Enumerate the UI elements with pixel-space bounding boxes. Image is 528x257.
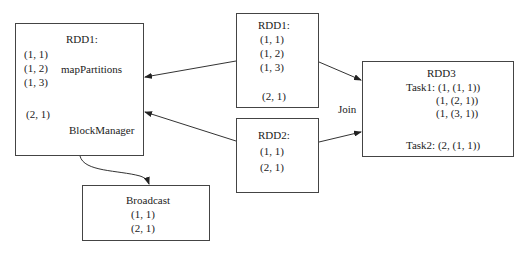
edge-rdd1main-to-broadcast [80, 156, 149, 184]
broadcast-item: (1, 1) [131, 208, 155, 220]
rdd2-item: (2, 1) [260, 161, 284, 173]
broadcast-title: Broadcast [126, 194, 170, 206]
rdd1-main-item: (1, 2) [24, 62, 48, 74]
rdd1-main-item: (1, 1) [24, 48, 48, 60]
rdd1-source-item: (1, 2) [260, 47, 284, 59]
rdd1-source-title: RDD1: [258, 19, 290, 31]
rdd2-node: RDD2: (1, 1) (2, 1) [236, 118, 319, 193]
rdd1-main-title: RDD1: [66, 33, 98, 45]
rdd1-main-item: (2, 1) [26, 108, 50, 120]
task2-label: Task2: (2, (1, 1)) [406, 139, 480, 151]
rdd3-title: RDD3 [427, 67, 456, 79]
rdd2-title: RDD2: [258, 129, 290, 141]
rdd1-source-node: RDD1: (1, 1) (1, 2) (1, 3) (2, 1) [236, 13, 319, 108]
map-partitions-label: mapPartitions [61, 63, 122, 75]
edge-rdd1src-to-rdd1main [145, 61, 236, 77]
task1-label: Task1: (1, (1, 1)) [406, 81, 480, 93]
block-manager-label: BlockManager [69, 124, 134, 136]
broadcast-item: (2, 1) [131, 222, 155, 234]
rdd1-source-item: (2, 1) [262, 90, 286, 102]
edge-rdd1src-to-rdd3 [319, 62, 361, 80]
rdd1-main-item: (1, 3) [24, 76, 48, 88]
rdd1-source-item: (1, 1) [260, 33, 284, 45]
task1-item: (1, (2, 1)) [436, 94, 478, 106]
rdd3-node: RDD3 Task1: (1, (1, 1)) (1, (2, 1)) (1, … [362, 61, 514, 157]
rdd2-item: (1, 1) [260, 145, 284, 157]
rdd1-source-item: (1, 3) [260, 61, 284, 73]
edge-rdd2-to-rdd3 [319, 132, 361, 142]
broadcast-node: Broadcast (1, 1) (2, 1) [82, 185, 210, 241]
edge-rdd2-to-rdd1main [145, 112, 236, 141]
rdd1-main-node: RDD1: (1, 1) (1, 2) (1, 3) (2, 1) mapPar… [15, 23, 144, 156]
join-label: Join [338, 103, 356, 115]
task1-item: (1, (3, 1)) [436, 107, 478, 119]
